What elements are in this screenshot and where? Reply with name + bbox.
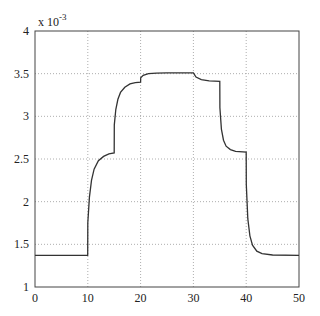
- x-tick-label: 10: [82, 291, 94, 305]
- grid: [35, 31, 299, 287]
- chart: 01020304050 11.522.533.54 x 10-3: [0, 0, 320, 316]
- y-axis-ticks: 11.522.533.54: [14, 24, 29, 294]
- x-tick-label: 50: [293, 291, 305, 305]
- x-tick-label: 20: [135, 291, 147, 305]
- x-tick-label: 30: [187, 291, 199, 305]
- x-tick-label: 0: [32, 291, 38, 305]
- y-axis-multiplier: x 10-3: [38, 12, 67, 29]
- y-tick-label: 3: [23, 109, 29, 123]
- x-tick-label: 40: [240, 291, 252, 305]
- y-tick-label: 4: [23, 24, 29, 38]
- y-tick-label: 2.5: [14, 152, 29, 166]
- data-line: [35, 73, 299, 256]
- y-tick-label: 3.5: [14, 67, 29, 81]
- y-tick-label: 2: [23, 195, 29, 209]
- y-tick-label: 1: [23, 280, 29, 294]
- x-axis-ticks: 01020304050: [32, 291, 305, 305]
- y-tick-label: 1.5: [14, 237, 29, 251]
